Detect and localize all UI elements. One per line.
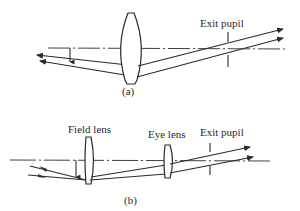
- caption-b: (b): [124, 194, 137, 207]
- optical-diagram: Exit pupil (a) Field lens Eye lens Exit …: [0, 0, 300, 211]
- exit-pupil-label-b: Exit pupil: [200, 126, 244, 138]
- objective-lens-a: [121, 13, 142, 84]
- eye-lens-label: Eye lens: [148, 128, 186, 140]
- panel-b: Field lens Eye lens Exit pupil (b): [10, 123, 270, 207]
- emergent-ray-upper-a: [138, 29, 283, 66]
- emergent-ray-lower-a: [137, 38, 283, 77]
- emergent-ray-lower-b: [170, 157, 253, 173]
- field-lens-label: Field lens: [68, 123, 111, 135]
- caption-a: (a): [122, 85, 135, 98]
- panel-a: Exit pupil (a): [37, 13, 288, 98]
- exit-pupil-label-a: Exit pupil: [200, 17, 244, 29]
- optical-axis-a: [48, 48, 288, 49]
